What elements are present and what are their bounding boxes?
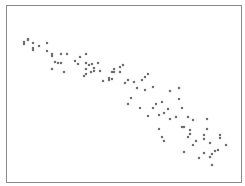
data-point <box>90 71 92 73</box>
data-point <box>32 49 34 51</box>
data-point <box>163 112 165 114</box>
data-point <box>169 118 171 120</box>
data-point <box>51 55 53 57</box>
data-point <box>178 87 180 89</box>
data-point <box>93 67 95 69</box>
data-point <box>181 107 183 109</box>
data-point <box>32 42 34 44</box>
data-point <box>85 62 87 64</box>
data-point <box>77 63 79 65</box>
data-point <box>97 62 99 64</box>
data-point <box>99 70 101 72</box>
data-point <box>141 79 143 81</box>
data-point <box>51 68 53 70</box>
data-point <box>133 81 135 83</box>
data-point <box>85 53 87 55</box>
data-point <box>206 118 208 120</box>
data-point <box>152 107 154 109</box>
data-point <box>178 98 180 100</box>
data-point <box>85 68 87 70</box>
data-point <box>27 39 29 41</box>
data-point <box>192 144 194 146</box>
data-point <box>189 133 191 135</box>
data-point <box>54 61 56 63</box>
data-point <box>152 86 154 88</box>
data-point <box>23 41 25 43</box>
data-point <box>108 79 110 81</box>
data-point <box>91 63 93 65</box>
data-point <box>119 66 121 68</box>
data-point <box>38 45 40 47</box>
data-point <box>211 164 213 166</box>
data-point <box>136 87 138 89</box>
data-point <box>119 71 121 73</box>
data-point <box>158 128 160 130</box>
data-point <box>209 142 211 144</box>
data-point <box>113 71 115 73</box>
data-point <box>214 150 216 152</box>
data-point <box>203 152 205 154</box>
data-point <box>225 144 227 146</box>
data-point <box>209 156 211 158</box>
data-point <box>124 82 126 84</box>
data-point <box>139 107 141 109</box>
data-point <box>88 64 90 66</box>
data-point <box>46 42 48 44</box>
data-point <box>83 75 85 77</box>
data-point <box>175 116 177 118</box>
data-point <box>66 53 68 55</box>
data-point <box>167 108 169 110</box>
data-point <box>183 126 185 128</box>
data-point <box>187 116 189 118</box>
data-point <box>108 77 110 79</box>
data-point <box>111 71 113 73</box>
data-point <box>183 151 185 153</box>
data-point <box>155 103 157 105</box>
data-point <box>32 47 34 49</box>
data-point <box>192 119 194 121</box>
data-point <box>195 140 197 142</box>
data-point <box>206 128 208 130</box>
data-point <box>60 62 62 64</box>
data-point <box>211 153 213 155</box>
scatter-points <box>0 0 245 186</box>
data-point <box>102 80 104 82</box>
data-point <box>51 53 53 55</box>
data-point <box>189 129 191 131</box>
data-point <box>127 79 129 81</box>
data-point <box>57 62 59 64</box>
data-point <box>111 78 113 80</box>
data-point <box>122 64 124 66</box>
data-point <box>163 140 165 142</box>
data-point <box>203 134 205 136</box>
data-point <box>161 101 163 103</box>
data-point <box>127 103 129 105</box>
data-point <box>217 149 219 151</box>
data-point <box>79 56 81 58</box>
data-point <box>93 70 95 72</box>
data-point <box>63 71 65 73</box>
data-point <box>181 126 183 128</box>
data-point <box>23 43 25 45</box>
data-point <box>158 114 160 116</box>
data-point <box>187 136 189 138</box>
data-point <box>74 60 76 62</box>
data-point <box>219 137 221 139</box>
data-point <box>169 90 171 92</box>
data-point <box>219 134 221 136</box>
data-point <box>147 115 149 117</box>
data-point <box>113 68 115 70</box>
data-point <box>147 73 149 75</box>
data-point <box>85 73 87 75</box>
data-point <box>130 97 132 99</box>
data-point <box>144 76 146 78</box>
data-point <box>144 89 146 91</box>
data-point <box>161 136 163 138</box>
data-point <box>60 53 62 55</box>
data-point <box>198 157 200 159</box>
data-point <box>203 138 205 140</box>
data-point <box>46 50 48 52</box>
